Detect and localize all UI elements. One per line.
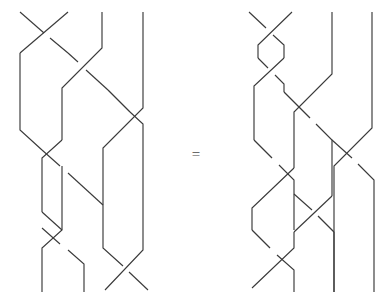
left-strand-segment bbox=[42, 212, 62, 230]
right-strand-segment bbox=[254, 58, 284, 140]
right-strand-segment bbox=[258, 58, 268, 68]
left-strand-segment bbox=[129, 272, 148, 290]
left-strand-segment bbox=[68, 173, 103, 205]
right-strand-segment bbox=[334, 12, 372, 292]
right-strand-segment bbox=[275, 75, 284, 92]
left-strand-segment bbox=[103, 12, 143, 200]
right-strand-segment bbox=[252, 168, 294, 230]
left-strand-segment bbox=[42, 228, 60, 244]
left-strand-segment bbox=[50, 38, 68, 53]
left-strand-segment bbox=[42, 150, 60, 166]
right-strand-segment bbox=[294, 12, 332, 168]
right-braid-group bbox=[249, 12, 374, 292]
right-strand-segment bbox=[332, 140, 352, 158]
left-strand-segment bbox=[62, 12, 102, 140]
left-strand-segment bbox=[86, 70, 108, 90]
braid-equation-figure: = bbox=[0, 0, 388, 298]
right-strand-segment bbox=[318, 216, 334, 232]
left-strand-segment bbox=[103, 200, 123, 266]
left-braid-group bbox=[20, 12, 148, 292]
left-strand-segment bbox=[20, 53, 42, 150]
right-strand-segment bbox=[249, 12, 266, 28]
right-strand-segment bbox=[273, 35, 284, 58]
left-strand-segment bbox=[20, 12, 44, 33]
left-strand-segment bbox=[105, 200, 143, 290]
equals-sign: = bbox=[186, 144, 206, 164]
right-strand-segment bbox=[284, 92, 310, 118]
left-strand-segment bbox=[42, 140, 62, 212]
right-strand-segment bbox=[277, 255, 294, 292]
right-strand-segment bbox=[252, 230, 270, 248]
left-strand-segment bbox=[108, 90, 130, 112]
left-strand-segment bbox=[42, 166, 62, 292]
right-strand-segment bbox=[294, 194, 312, 210]
right-strand-segment bbox=[254, 140, 272, 158]
right-strand-segment bbox=[252, 232, 294, 288]
left-strand-segment bbox=[68, 53, 78, 62]
right-strand-segment bbox=[358, 164, 374, 292]
right-strand-segment bbox=[294, 196, 332, 232]
left-strand-segment bbox=[130, 112, 143, 200]
right-strand-segment bbox=[258, 12, 292, 58]
left-strand-segment bbox=[68, 250, 84, 292]
right-strand-segment bbox=[316, 124, 332, 196]
